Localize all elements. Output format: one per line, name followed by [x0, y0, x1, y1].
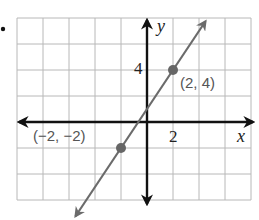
axes	[19, 20, 253, 204]
x-axis-label: x	[236, 126, 245, 146]
data-point	[116, 143, 126, 153]
grid	[17, 18, 251, 200]
bullet-icon	[1, 27, 5, 31]
y-tick-label: 4	[134, 59, 143, 78]
labels: x y 2 4 (2, 4) (−2, −2)	[33, 16, 245, 146]
x-tick-label: 2	[169, 127, 178, 146]
point-label-neg2-neg2: (−2, −2)	[33, 127, 86, 144]
point-label-2-4: (2, 4)	[180, 74, 215, 91]
y-axis-label: y	[155, 16, 165, 36]
coordinate-plane: x y 2 4 (2, 4) (−2, −2)	[0, 0, 259, 220]
data-point	[168, 65, 178, 75]
